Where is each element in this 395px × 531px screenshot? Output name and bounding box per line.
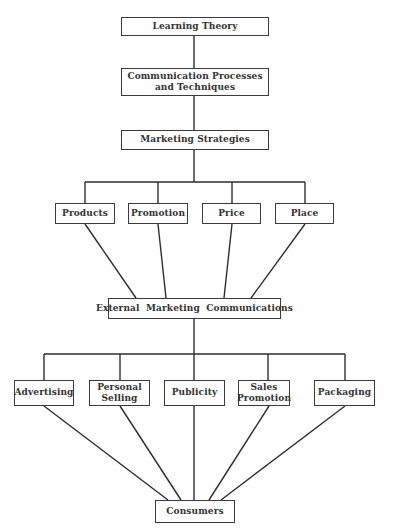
node-sales-promotion: Sales Promotion bbox=[238, 380, 290, 406]
node-promotion: Promotion bbox=[128, 203, 188, 224]
node-consumers: Consumers bbox=[155, 500, 235, 523]
node-external-marketing-communications: External Marketing Communications bbox=[108, 298, 281, 319]
node-label: Price bbox=[218, 208, 245, 219]
node-label: Products bbox=[62, 208, 108, 219]
edge-price-to-external bbox=[224, 224, 232, 298]
node-place: Place bbox=[275, 203, 334, 224]
node-packaging: Packaging bbox=[314, 380, 375, 406]
node-label: Place bbox=[291, 208, 319, 219]
node-label-line-1: Sales bbox=[250, 382, 277, 393]
node-label-line-1: Communication Processes bbox=[127, 71, 262, 82]
node-label: Learning Theory bbox=[152, 21, 237, 32]
node-label: Marketing Strategies bbox=[140, 134, 250, 145]
node-publicity: Publicity bbox=[164, 380, 225, 406]
node-learning-theory: Learning Theory bbox=[121, 17, 269, 36]
node-label: Consumers bbox=[166, 506, 223, 517]
edge-place-to-external bbox=[251, 224, 305, 298]
node-label-line-2: and Techniques bbox=[155, 82, 235, 93]
node-label-line-2: Selling bbox=[101, 393, 137, 404]
node-products: Products bbox=[55, 203, 115, 224]
node-label: Publicity bbox=[172, 387, 218, 398]
node-label: Advertising bbox=[15, 387, 74, 398]
edge-products-to-external bbox=[85, 224, 136, 298]
marketing-communications-diagram: Learning Theory Communication Processes … bbox=[0, 0, 395, 531]
edge-advertising-to-consumers bbox=[44, 406, 168, 500]
node-personal-selling: Personal Selling bbox=[89, 380, 150, 406]
node-marketing-strategies: Marketing Strategies bbox=[121, 130, 269, 150]
node-advertising: Advertising bbox=[14, 380, 74, 406]
node-label: External Marketing Communications bbox=[96, 303, 293, 314]
node-communication-processes: Communication Processes and Techniques bbox=[121, 68, 269, 96]
node-label: Packaging bbox=[318, 387, 371, 398]
node-price: Price bbox=[202, 203, 261, 224]
node-label-line-2: Promotion bbox=[237, 393, 291, 404]
edge-promotion-to-external bbox=[158, 224, 166, 298]
node-label: Promotion bbox=[131, 208, 185, 219]
node-label-line-1: Personal bbox=[97, 382, 142, 393]
